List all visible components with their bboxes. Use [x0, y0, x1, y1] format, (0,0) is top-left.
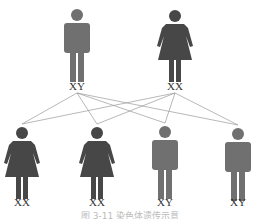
diagram-canvas — [0, 0, 257, 219]
female-icon — [79, 127, 115, 199]
child-label: XY — [223, 196, 253, 208]
father-label: XY — [62, 80, 92, 92]
male-icon — [64, 9, 90, 82]
child-label: XY — [150, 196, 180, 208]
male-icon — [225, 128, 251, 201]
figure-caption: 图 3-11 染色体遗传示意 — [40, 209, 220, 219]
female-icon — [4, 127, 40, 199]
child-label: XX — [82, 196, 112, 208]
child-label: XX — [7, 196, 37, 208]
male-icon — [152, 126, 178, 199]
female-icon — [157, 10, 193, 82]
mother-label: XX — [160, 80, 190, 92]
inheritance-lines — [22, 93, 238, 125]
